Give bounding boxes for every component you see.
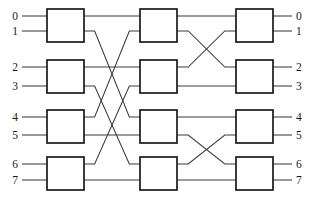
switch-2-3[interactable]	[140, 157, 177, 190]
s2-3-top-to-s3-2-bot	[177, 135, 236, 164]
switch-3-3[interactable]	[236, 157, 273, 190]
switch-1-3[interactable]	[47, 157, 84, 190]
switch-3-2[interactable]	[236, 110, 273, 143]
output-label-7: 7	[296, 174, 302, 186]
s1-3-top-to-s2-1-bot	[84, 86, 140, 164]
switch-2-0[interactable]	[140, 9, 177, 42]
input-label-7: 7	[12, 174, 18, 186]
output-wire-group	[273, 16, 292, 180]
output-label-1: 1	[296, 25, 302, 37]
output-label-6: 6	[296, 158, 302, 170]
input-label-3: 3	[12, 80, 18, 92]
switch-2-2[interactable]	[140, 110, 177, 143]
input-label-2: 2	[12, 61, 18, 73]
s2-1-top-to-s3-0-bot	[177, 31, 236, 67]
switch-3-1[interactable]	[236, 60, 273, 93]
switch-1-2[interactable]	[47, 110, 84, 143]
switch-box-group	[47, 9, 273, 190]
switch-3-0[interactable]	[236, 9, 273, 42]
output-label-2: 2	[296, 61, 302, 73]
stage1-to-stage2-wire-group	[84, 16, 140, 180]
s1-2-top-to-s2-0-bot	[84, 31, 140, 117]
switch-1-0[interactable]	[47, 9, 84, 42]
input-label-1: 1	[12, 25, 18, 37]
output-label-4: 4	[296, 111, 302, 123]
input-label-5: 5	[12, 129, 18, 141]
switch-2-1[interactable]	[140, 60, 177, 93]
output-label-5: 5	[296, 129, 302, 141]
input-label-4: 4	[12, 111, 18, 123]
switch-1-1[interactable]	[47, 60, 84, 93]
network-diagram-svg: 01234567 01234567	[0, 0, 313, 200]
output-label-3: 3	[296, 80, 302, 92]
input-label-group: 01234567	[12, 10, 18, 186]
input-label-0: 0	[12, 10, 18, 22]
diagram-canvas: 01234567 01234567	[0, 0, 313, 200]
output-label-group: 01234567	[296, 10, 302, 186]
output-label-0: 0	[296, 10, 302, 22]
input-label-6: 6	[12, 158, 18, 170]
stage2-to-stage3-wire-group	[177, 16, 236, 180]
input-wire-group	[22, 16, 47, 180]
